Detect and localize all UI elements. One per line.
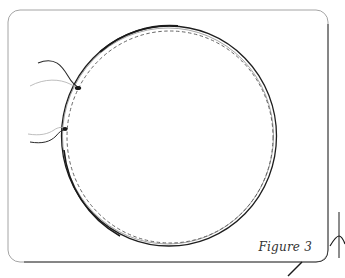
- figure-caption: Figure 3: [252, 240, 312, 254]
- knot-lower: [62, 127, 67, 131]
- sewing-diagram: [0, 0, 345, 278]
- knot-upper: [75, 86, 81, 90]
